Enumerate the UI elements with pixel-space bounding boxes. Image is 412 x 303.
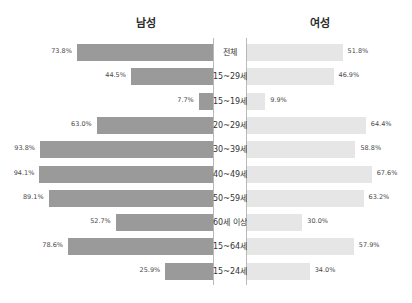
male-bar[interactable] xyxy=(39,166,213,183)
category-label: 15~24세 xyxy=(213,263,246,280)
female-bar[interactable] xyxy=(247,190,364,207)
male-value-label: 44.5% xyxy=(105,71,126,79)
male-value-label: 89.1% xyxy=(23,193,44,201)
male-value-label: 63.0% xyxy=(71,120,92,128)
chart-row: 44.5%15~29세46.9% xyxy=(0,68,412,85)
male-bar[interactable] xyxy=(68,238,213,255)
chart-row: 73.8%전체51.8% xyxy=(0,44,412,61)
female-bar[interactable] xyxy=(247,117,366,134)
male-bar[interactable] xyxy=(97,117,213,134)
female-value-label: 57.9% xyxy=(359,241,380,249)
female-bar[interactable] xyxy=(247,68,334,85)
male-value-label: 7.7% xyxy=(177,96,194,104)
male-bar-cell: 25.9% xyxy=(0,263,213,280)
male-bar-cell: 93.8% xyxy=(0,141,213,158)
category-label: 15~19세 xyxy=(213,93,246,110)
female-bar-cell: 58.8% xyxy=(247,141,412,158)
chart-row: 52.7%60세 이상30.0% xyxy=(0,214,412,231)
male-bar-cell: 7.7% xyxy=(0,93,213,110)
male-bar-cell: 44.5% xyxy=(0,68,213,85)
male-bar[interactable] xyxy=(77,44,213,61)
pyramid-chart: 남성 여성 73.8%전체51.8%44.5%15~29세46.9%7.7%15… xyxy=(0,0,412,303)
male-bar[interactable] xyxy=(40,141,213,158)
female-bar-cell: 63.2% xyxy=(247,190,412,207)
male-value-label: 93.8% xyxy=(14,144,35,152)
female-bar[interactable] xyxy=(247,44,343,61)
male-bar[interactable] xyxy=(131,68,213,85)
chart-row: 25.9%15~24세34.0% xyxy=(0,263,412,280)
female-value-label: 9.9% xyxy=(270,96,287,104)
male-value-label: 52.7% xyxy=(90,217,111,225)
female-bar-cell: 51.8% xyxy=(247,44,412,61)
female-bar-cell: 64.4% xyxy=(247,117,412,134)
category-label: 15~64세 xyxy=(213,238,246,255)
female-value-label: 64.4% xyxy=(371,120,392,128)
female-value-label: 46.9% xyxy=(339,71,360,79)
female-bar-cell: 34.0% xyxy=(247,263,412,280)
chart-row: 78.6%15~64세57.9% xyxy=(0,238,412,255)
male-bar[interactable] xyxy=(199,93,213,110)
female-bar-cell: 67.6% xyxy=(247,166,412,183)
chart-row: 94.1%40~49세67.6% xyxy=(0,166,412,183)
female-value-label: 58.8% xyxy=(360,144,381,152)
female-bar[interactable] xyxy=(247,238,354,255)
female-bar[interactable] xyxy=(247,214,302,231)
male-bar-cell: 78.6% xyxy=(0,238,213,255)
female-bar-cell: 30.0% xyxy=(247,214,412,231)
female-bar-cell: 46.9% xyxy=(247,68,412,85)
female-value-label: 30.0% xyxy=(307,217,328,225)
category-label: 15~29세 xyxy=(213,68,246,85)
female-bar[interactable] xyxy=(247,263,310,280)
category-label: 20~29세 xyxy=(213,117,246,134)
female-bar[interactable] xyxy=(247,166,372,183)
male-bar-cell: 89.1% xyxy=(0,190,213,207)
female-value-label: 34.0% xyxy=(315,266,336,274)
female-bar-cell: 9.9% xyxy=(247,93,412,110)
female-bar-cell: 57.9% xyxy=(247,238,412,255)
female-bar[interactable] xyxy=(247,93,265,110)
male-bar[interactable] xyxy=(49,190,213,207)
male-value-label: 25.9% xyxy=(140,266,161,274)
female-value-label: 51.8% xyxy=(348,47,369,55)
category-label: 50~59세 xyxy=(213,190,246,207)
male-bar-cell: 63.0% xyxy=(0,117,213,134)
category-label: 전체 xyxy=(213,44,246,61)
category-label: 60세 이상 xyxy=(213,214,246,231)
category-label: 40~49세 xyxy=(213,166,246,183)
male-value-label: 73.8% xyxy=(51,47,72,55)
male-bar-cell: 73.8% xyxy=(0,44,213,61)
chart-title-female: 여성 xyxy=(270,14,370,30)
female-value-label: 63.2% xyxy=(369,193,390,201)
chart-title-male: 남성 xyxy=(96,14,196,30)
male-value-label: 94.1% xyxy=(14,169,35,177)
female-bar[interactable] xyxy=(247,141,355,158)
male-bar-cell: 52.7% xyxy=(0,214,213,231)
male-bar[interactable] xyxy=(165,263,213,280)
chart-row: 89.1%50~59세63.2% xyxy=(0,190,412,207)
male-bar[interactable] xyxy=(116,214,213,231)
male-bar-cell: 94.1% xyxy=(0,166,213,183)
male-value-label: 78.6% xyxy=(42,241,63,249)
chart-row: 7.7%15~19세9.9% xyxy=(0,93,412,110)
female-value-label: 67.6% xyxy=(377,169,398,177)
chart-row: 63.0%20~29세64.4% xyxy=(0,117,412,134)
chart-row: 93.8%30~39세58.8% xyxy=(0,141,412,158)
category-label: 30~39세 xyxy=(213,141,246,158)
